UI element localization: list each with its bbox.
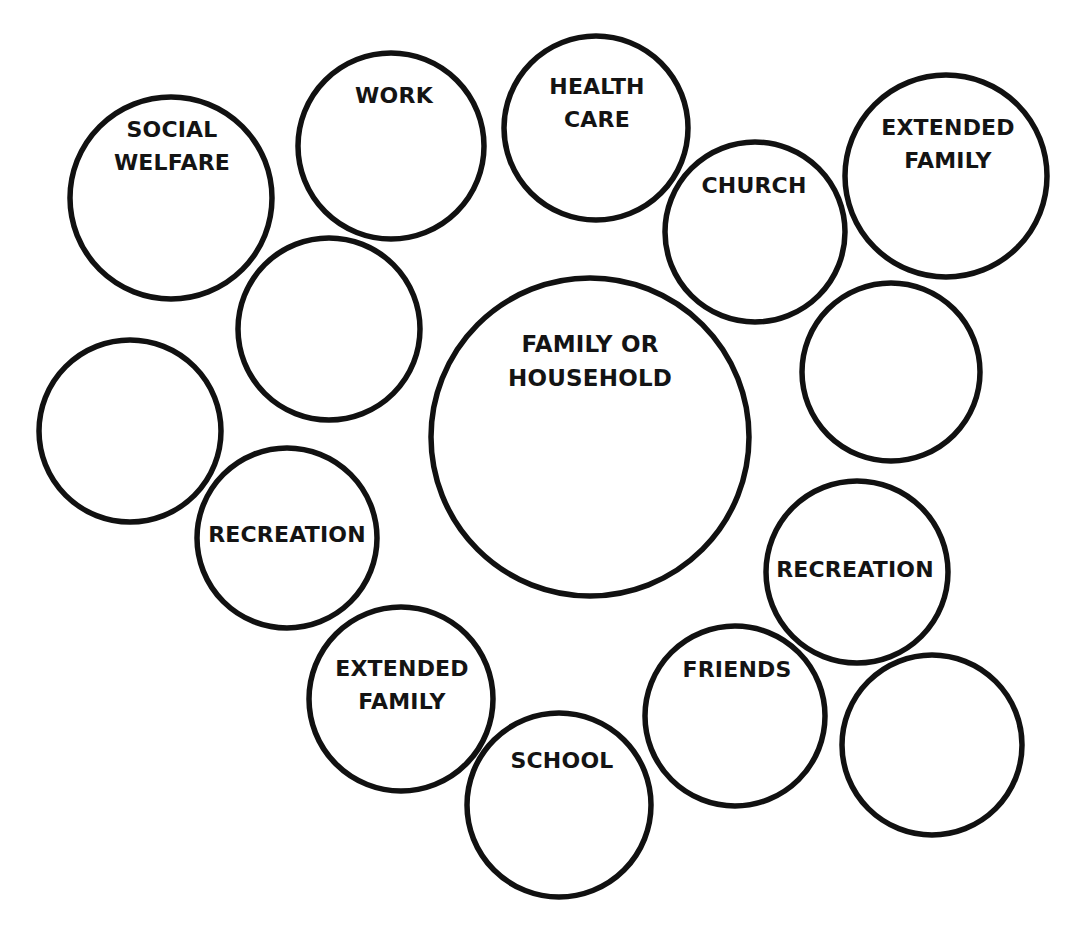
node-label-friends: FRIENDS bbox=[682, 653, 791, 686]
node-label-family-or-household: FAMILY ORHOUSEHOLD bbox=[508, 327, 672, 395]
node-label-line: WELFARE bbox=[114, 146, 230, 179]
node-label-work: WORK bbox=[355, 79, 433, 112]
node-label-line: HEALTH bbox=[549, 70, 644, 103]
node-label-line: FAMILY OR bbox=[508, 327, 672, 361]
node-label-line: RECREATION bbox=[208, 518, 366, 551]
node-circle-blank-left bbox=[39, 340, 221, 522]
node-circle-blank-bottom-right bbox=[842, 655, 1022, 835]
node-label-extended-family-bottom: EXTENDEDFAMILY bbox=[335, 652, 469, 718]
node-label-line: EXTENDED bbox=[335, 652, 469, 685]
node-label-church: CHURCH bbox=[701, 169, 806, 202]
node-label-health-care: HEALTHCARE bbox=[549, 70, 644, 136]
node-label-line: FAMILY bbox=[881, 144, 1015, 177]
node-label-recreation-left: RECREATION bbox=[208, 518, 366, 551]
node-label-line: CHURCH bbox=[701, 169, 806, 202]
node-label-social-welfare: SOCIALWELFARE bbox=[114, 113, 230, 179]
node-label-line: FRIENDS bbox=[682, 653, 791, 686]
center-node-family-or-household bbox=[431, 278, 749, 596]
node-label-school: SCHOOL bbox=[510, 744, 613, 777]
node-label-recreation-right: RECREATION bbox=[776, 553, 934, 586]
node-label-line: FAMILY bbox=[335, 685, 469, 718]
node-label-line: EXTENDED bbox=[881, 111, 1015, 144]
node-label-extended-family-top: EXTENDEDFAMILY bbox=[881, 111, 1015, 177]
node-circle-blank-upper-left bbox=[238, 238, 420, 420]
node-label-line: SOCIAL bbox=[114, 113, 230, 146]
node-label-line: HOUSEHOLD bbox=[508, 361, 672, 395]
node-label-line: RECREATION bbox=[776, 553, 934, 586]
node-label-line: SCHOOL bbox=[510, 744, 613, 777]
node-label-line: CARE bbox=[549, 103, 644, 136]
node-circle-blank-right bbox=[802, 283, 980, 461]
node-circle-school bbox=[467, 713, 651, 897]
node-label-line: WORK bbox=[355, 79, 433, 112]
